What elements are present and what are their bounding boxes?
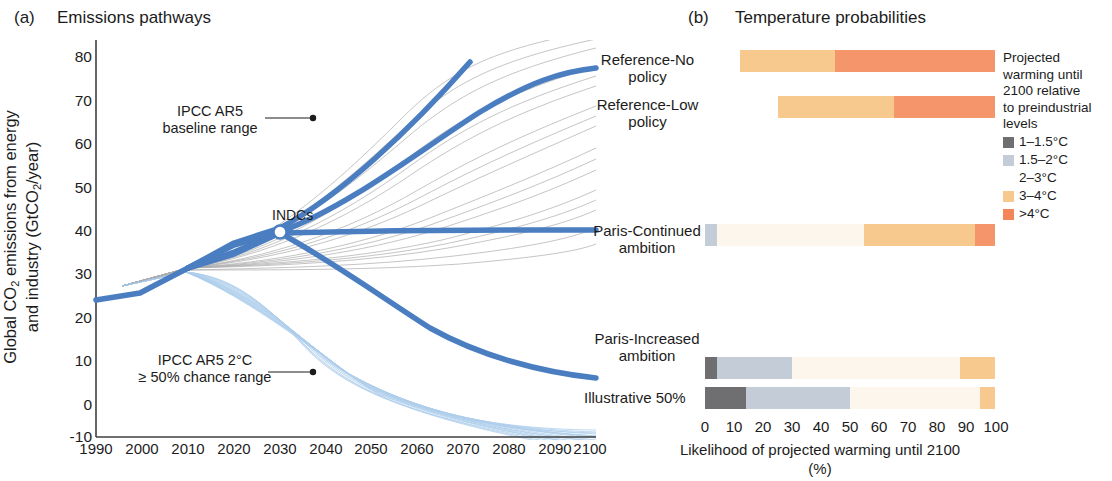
bar-segment-c3_4 xyxy=(740,50,836,72)
legend-swatch-icon xyxy=(1003,191,1014,202)
bar-segment-c3_4 xyxy=(980,387,995,409)
legend-swatch-icon xyxy=(1003,209,1014,220)
annotation-baseline-range: IPCC AR5 baseline range xyxy=(140,103,280,137)
bar-label-line2: ambition xyxy=(586,347,708,364)
bar-label-paris-continued-ambition: Paris-Continued ambition xyxy=(586,222,708,256)
bar-label-paris-increased-ambition: Paris-Increased ambition xyxy=(586,330,708,364)
emissions-plot xyxy=(0,0,600,481)
bar-segment-none xyxy=(705,50,740,72)
x-tick: 1990 xyxy=(73,440,119,457)
legend-label: 2–3°C xyxy=(1019,170,1057,187)
bar-segment-c1_5_2 xyxy=(746,387,850,409)
legend-item-3-4c: 3–4°C xyxy=(1003,188,1111,205)
bar-label-line1: Reference-Low xyxy=(590,96,705,113)
x-tick: 2020 xyxy=(211,440,257,457)
bx-tick: 100 xyxy=(976,418,1016,435)
annotation-2c-line1: IPCC AR5 2°C xyxy=(120,352,290,369)
bar-paris-continued-ambition xyxy=(705,224,995,246)
bar-segment-c1_1_5 xyxy=(705,357,717,379)
baseline-spaghetti-lines xyxy=(122,30,596,452)
bar-label-line1: Paris-Continued xyxy=(586,222,708,239)
bar-label-illustrative-50: Illustrative 50% xyxy=(584,389,708,406)
annotation-2c-line2: ≥ 50% chance range xyxy=(120,369,290,386)
annotation-indcs: INDCs xyxy=(272,207,342,224)
legend-item-1.5-2c: 1.5–2°C xyxy=(1003,152,1111,169)
bar-segment-c4plus xyxy=(835,50,995,72)
x-tick: 2030 xyxy=(257,440,303,457)
bar-segment-c2_3 xyxy=(717,224,865,246)
legend-swatch-icon xyxy=(1003,173,1014,184)
legend-swatch-icon xyxy=(1003,137,1014,148)
bar-segment-c1_1_5 xyxy=(705,387,746,409)
bar-segment-c4plus xyxy=(975,224,995,246)
bar-label-line2: policy xyxy=(590,68,705,85)
legend-label: 3–4°C xyxy=(1019,188,1057,205)
bar-segment-c2_3 xyxy=(792,357,960,379)
bar-segment-c3_4 xyxy=(960,357,995,379)
legend: Projected warming until 2100 relative to… xyxy=(1003,50,1111,223)
bar-label-line1: Paris-Increased xyxy=(586,330,708,347)
annotation-baseline-line1: IPCC AR5 xyxy=(140,103,280,120)
annotation-2c-range: IPCC AR5 2°C ≥ 50% chance range xyxy=(120,352,290,386)
legend-item-1-1.5c: 1–1.5°C xyxy=(1003,134,1111,151)
bar-illustrative-50 xyxy=(705,387,995,409)
x-tick: 2040 xyxy=(303,440,349,457)
bar-segment-c4plus xyxy=(894,96,996,118)
legend-label: 1.5–2°C xyxy=(1019,152,1068,169)
bar-label-line1: Reference-No xyxy=(590,51,705,68)
x-tick: 2070 xyxy=(440,440,486,457)
legend-swatch-icon xyxy=(1003,155,1014,166)
legend-item-2-3c: 2–3°C xyxy=(1003,170,1111,187)
legend-label: >4°C xyxy=(1019,206,1050,223)
bar-segment-c1_5_2 xyxy=(705,224,717,246)
legend-label: 1–1.5°C xyxy=(1019,134,1068,151)
emissions-pathways-panel: (a) Emissions pathways Global CO2 emissi… xyxy=(0,0,600,481)
indcs-marker xyxy=(274,226,287,239)
bar-label-line2: policy xyxy=(590,113,705,130)
x-tick: 2010 xyxy=(165,440,211,457)
legend-heading-line5: levels xyxy=(1003,116,1111,133)
bar-reference-no-policy xyxy=(705,50,995,72)
x-tick: 2060 xyxy=(394,440,440,457)
bar-reference-low-policy xyxy=(705,96,995,118)
legend-heading-line4: to preindustrial xyxy=(1003,100,1111,117)
panel-b-x-axis-label-line2: (%) xyxy=(610,459,1030,478)
pathway-reference-low-policy xyxy=(188,68,596,268)
historical-emissions-line xyxy=(96,268,188,300)
legend-heading-line1: Projected xyxy=(1003,50,1111,67)
bar-segment-c1_5_2 xyxy=(717,357,792,379)
panel-b-title: Temperature probabilities xyxy=(735,8,926,28)
legend-heading-line2: warming until xyxy=(1003,67,1111,84)
panel-b-x-axis-label: Likelihood of projected warming until 21… xyxy=(610,440,1030,478)
bar-label-line1: Illustrative 50% xyxy=(584,389,708,406)
x-tick: 2000 xyxy=(119,440,165,457)
legend-item-over-4c: >4°C xyxy=(1003,206,1111,223)
panel-b-tag: (b) xyxy=(688,8,709,28)
x-tick: 2050 xyxy=(348,440,394,457)
bar-label-reference-no-policy: Reference-No policy xyxy=(590,51,705,85)
bar-segment-c3_4 xyxy=(778,96,894,118)
bar-segment-none xyxy=(705,96,778,118)
x-tick: 2080 xyxy=(486,440,532,457)
legend-heading-line3: 2100 relative xyxy=(1003,83,1111,100)
bar-paris-increased-ambition xyxy=(705,357,995,379)
bar-segment-c3_4 xyxy=(864,224,974,246)
bar-label-line2: ambition xyxy=(586,239,708,256)
panel-b-x-axis-label-line1: Likelihood of projected warming until 21… xyxy=(610,440,1030,459)
bar-segment-c2_3 xyxy=(850,387,981,409)
annotation-leaders xyxy=(265,115,316,374)
annotation-baseline-line2: baseline range xyxy=(140,120,280,137)
bar-label-reference-low-policy: Reference-Low policy xyxy=(590,96,705,130)
